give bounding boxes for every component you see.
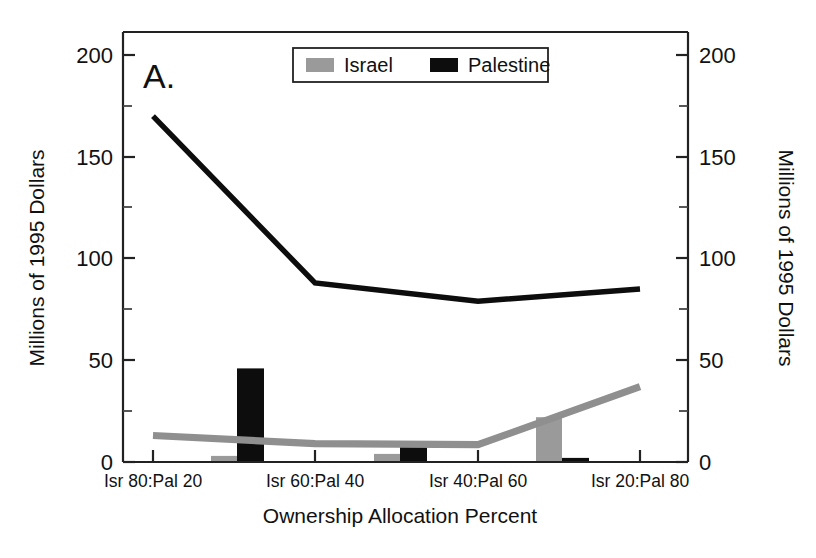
legend-swatch-israel (306, 58, 334, 72)
bar-palestine-1 (237, 368, 264, 462)
panel-label: A. (143, 57, 175, 95)
x-tick-label-0: Isr 80:Pal 20 (104, 471, 203, 491)
right-tick-label-100: 100 (699, 246, 736, 271)
left-tick-label-200: 200 (76, 43, 113, 68)
left-axis-title: Millions of 1995 Dollars (25, 149, 48, 366)
right-tick-label-0: 0 (699, 450, 711, 475)
left-tick-label-50: 50 (89, 348, 113, 373)
right-tick-label-200: 200 (699, 43, 736, 68)
right-tick-label-50: 50 (699, 348, 723, 373)
legend-swatch-palestine (430, 58, 458, 72)
legend-label-israel: Israel (344, 54, 393, 76)
x-axis-title: Ownership Allocation Percent (263, 504, 537, 527)
x-tick-label-2: Isr 40:Pal 60 (429, 471, 528, 491)
right-axis-title: Millions of 1995 Dollars (775, 149, 798, 366)
x-tick-label-3: Isr 20:Pal 80 (591, 471, 690, 491)
bar-israel-2 (374, 454, 400, 462)
x-tick-label-1: Isr 60:Pal 40 (266, 471, 365, 491)
chart-svg: 200 150 100 50 0 Millions of 1995 Dollar… (0, 0, 816, 558)
right-tick-label-150: 150 (699, 145, 736, 170)
left-tick-label-100: 100 (76, 246, 113, 271)
figure-panel-a: 200 150 100 50 0 Millions of 1995 Dollar… (0, 0, 816, 558)
chart-legend: Israel Palestine (293, 48, 550, 82)
left-tick-label-150: 150 (76, 145, 113, 170)
legend-label-palestine: Palestine (468, 54, 550, 76)
